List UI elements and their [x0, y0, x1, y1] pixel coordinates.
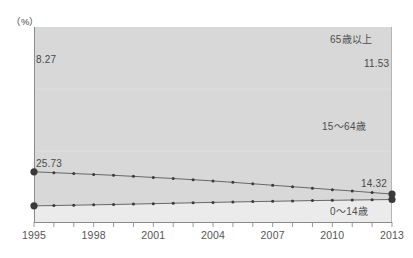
value-label-65-end: 11.53: [364, 58, 389, 69]
data-point-marker: [231, 201, 234, 204]
data-point-marker: [351, 189, 354, 192]
x-axis-tick-label: 2010: [320, 229, 344, 241]
data-point-marker: [192, 178, 195, 181]
data-point-marker: [271, 184, 274, 187]
data-point-marker: [192, 201, 195, 204]
data-point-marker: [152, 202, 155, 205]
data-point-marker: [291, 185, 294, 188]
upper-age-band: [34, 27, 392, 206]
series-label-15-64: 15～64歳: [322, 118, 366, 133]
data-point-marker: [331, 188, 334, 191]
y-axis-unit-label: （%）: [11, 14, 39, 28]
data-point-marker: [311, 199, 314, 202]
age-composition-chart: （%） 1995199820012004200720102013 65歳以上 1…: [0, 0, 413, 258]
data-point-marker: [291, 199, 294, 202]
data-point-marker: [72, 172, 75, 175]
data-point-marker: [172, 202, 175, 205]
data-point-marker: [351, 199, 354, 202]
data-point-marker: [311, 187, 314, 190]
value-label-0-14-end: 14.32: [361, 178, 387, 189]
data-point-marker: [72, 204, 75, 207]
data-point-marker: [132, 203, 135, 206]
data-point-marker: [251, 182, 254, 185]
data-point-marker: [52, 204, 55, 207]
data-point-marker: [132, 175, 135, 178]
data-point-marker: [92, 173, 95, 176]
x-axis-tick-label: 1995: [22, 229, 46, 241]
data-point-marker: [331, 199, 334, 202]
x-axis-tick-label: 2004: [201, 229, 225, 241]
value-label-0-14-start: 25.73: [36, 158, 62, 169]
data-point-marker: [271, 200, 274, 203]
data-point-marker: [152, 176, 155, 179]
data-point-marker: [52, 171, 55, 174]
data-point-marker: [371, 198, 374, 201]
series-label-65-plus: 65歳以上: [330, 31, 373, 46]
x-axis-tick-label: 2007: [261, 229, 285, 241]
data-point-marker: [212, 179, 215, 182]
data-point-marker: [112, 203, 115, 206]
data-point-marker: [231, 181, 234, 184]
endpoint-marker: [30, 168, 37, 175]
x-axis-tick-label: 2001: [141, 229, 165, 241]
data-point-marker: [92, 203, 95, 206]
data-point-marker: [371, 191, 374, 194]
endpoint-marker: [388, 190, 395, 197]
x-axis-tick-label: 2013: [380, 229, 404, 241]
data-point-marker: [172, 177, 175, 180]
data-point-marker: [212, 201, 215, 204]
data-point-marker: [251, 200, 254, 203]
x-axis-tick-label: 1998: [82, 229, 106, 241]
endpoint-marker: [30, 202, 37, 209]
data-point-marker: [112, 174, 115, 177]
value-label-65-start: 8.27: [36, 54, 56, 65]
series-label-0-14: 0～14歳: [330, 203, 368, 218]
